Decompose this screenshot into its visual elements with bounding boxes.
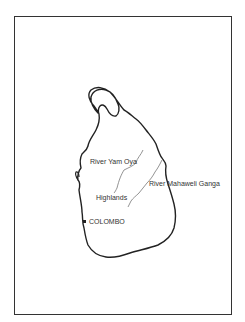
label-river-yam-oya: River Yam Oya — [90, 158, 137, 165]
colombo-marker — [83, 220, 86, 223]
label-colombo: COLOMBO — [89, 218, 125, 225]
label-highlands: Highlands — [96, 194, 127, 201]
label-river-mahaweli-ganga: River Mahaweli Ganga — [149, 180, 220, 187]
island-outline — [78, 88, 176, 258]
river-yam-oya — [114, 150, 143, 193]
